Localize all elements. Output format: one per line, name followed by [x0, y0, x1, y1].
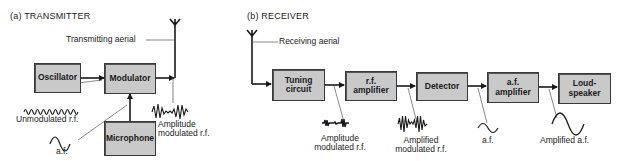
microphone-block: Microphone: [104, 121, 156, 156]
receiver-title: (b) RECEIVER: [247, 12, 309, 21]
tx-am-rf-label-line2: modulated r.f.: [158, 129, 210, 138]
transmit-aerial-icon: [170, 19, 180, 25]
loudspeaker-label-line2: speaker: [568, 89, 600, 98]
oscillator-label: Oscillator: [38, 73, 77, 82]
transmitter-title: (a) TRANSMITTER: [10, 12, 90, 21]
amplified-am-rf-label: Amplified modulated r.f.: [385, 136, 457, 154]
rx-af-wave-icon: [478, 124, 498, 133]
rx-af-label: a.f.: [482, 136, 494, 145]
radio-block-diagram: (a) TRANSMITTER Transmitting aerial Osci…: [0, 0, 626, 161]
amplified-am-rf-wave-icon: [398, 116, 427, 132]
tuning-circuit-block: Tuning circuit: [272, 69, 325, 101]
detector-block: Detector: [416, 72, 468, 101]
rx-am-rf-label-line2: modulated r.f.: [305, 143, 375, 152]
amplified-am-rf-label-line2: modulated r.f.: [385, 145, 457, 154]
rx-am-rf-label: Amplitude modulated r.f.: [305, 134, 375, 152]
transmitting-aerial-label: Transmitting aerial: [66, 35, 136, 44]
microphone-label: Microphone: [106, 134, 154, 143]
am-rf-wave-icon: [152, 104, 188, 119]
unmodulated-rf-label: Unmodulated r.f.: [16, 115, 78, 124]
receive-aerial-icon: [247, 30, 257, 36]
rx-am-rf-wave-icon: [322, 119, 349, 127]
amplified-af-label: Amplified a.f.: [540, 136, 589, 145]
tx-af-label: a.f.: [56, 147, 68, 156]
af-amplifier-block: a.f. amplifier: [487, 72, 539, 103]
receiving-aerial-label: Receiving aerial: [279, 37, 339, 46]
loudspeaker-block: Loud- speaker: [558, 73, 611, 104]
oscillator-block: Oscillator: [34, 63, 81, 93]
modulator-block: Modulator: [104, 63, 156, 94]
modulator-label: Modulator: [109, 74, 150, 83]
detector-label: Detector: [425, 82, 459, 91]
rf-amp-label-line2: amplifier: [353, 86, 388, 95]
af-amp-label-line2: amplifier: [495, 88, 530, 97]
tuning-label-line2: circuit: [285, 85, 313, 94]
rf-amplifier-block: r.f. amplifier: [345, 71, 397, 101]
